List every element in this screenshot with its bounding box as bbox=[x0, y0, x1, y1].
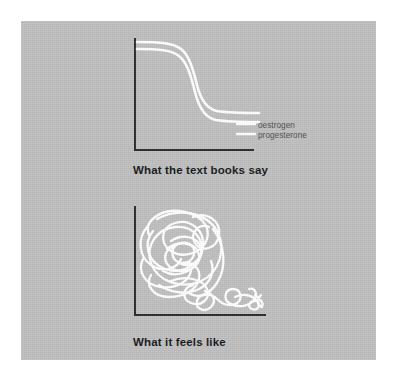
chart-feelslike bbox=[21, 189, 376, 360]
scribble-group bbox=[141, 211, 263, 310]
caption-textbooks: What the text books say bbox=[133, 164, 268, 176]
legend-label-progesterone: progesterone bbox=[258, 131, 307, 140]
scribble-stroke-2 bbox=[149, 213, 221, 285]
panel-textbooks: oestrogen progesterone What the text boo… bbox=[21, 21, 376, 191]
legend-label-oestrogen: oestrogen bbox=[258, 121, 295, 130]
screenshot-canvas: oestrogen progesterone What the text boo… bbox=[0, 0, 396, 379]
image-card: oestrogen progesterone What the text boo… bbox=[21, 21, 376, 360]
caption-feelslike: What it feels like bbox=[133, 336, 226, 348]
panel-feelslike: What it feels like bbox=[21, 189, 376, 360]
